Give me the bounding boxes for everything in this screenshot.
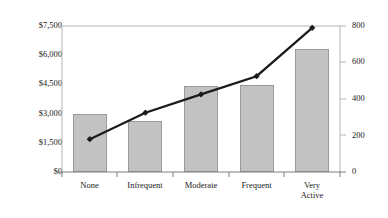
chart-container: $7,500 $6,000 $4,500 $3,000 $1,500 $0 80… — [0, 0, 388, 218]
line-series-path — [90, 28, 312, 139]
left-axis-ticks — [57, 26, 62, 172]
x-axis-label-infrequent: Infrequent — [117, 180, 173, 190]
line-marker-2 — [198, 91, 204, 97]
x-axis-label-moderate: Moderate — [173, 180, 229, 190]
category-ticks — [62, 172, 340, 177]
x-axis-label-frequent: Frequent — [229, 180, 284, 190]
right-axis-ticks — [340, 26, 346, 172]
x-axis-label-none: None — [62, 180, 117, 190]
x-axis-label-very-active: Very Active — [284, 180, 340, 200]
plot-frame — [62, 26, 340, 172]
